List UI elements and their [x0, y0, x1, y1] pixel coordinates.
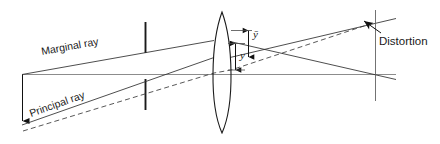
- chief-ray-height-label: ȳ: [252, 28, 259, 40]
- marginal-ray-height-label: y: [239, 49, 245, 61]
- distortion-label: Distortion: [379, 35, 428, 47]
- distortion-ray-diagram: Marginal ray Principal ray ȳ y Distorti…: [0, 0, 440, 144]
- principal-ray-incoming: [22, 58, 214, 126]
- ray-diagram-canvas: Marginal ray Principal ray ȳ y Distorti…: [0, 0, 440, 144]
- marginal-ray-label: Marginal ray: [40, 35, 100, 57]
- marginal-ray-outgoing: [230, 42, 396, 80]
